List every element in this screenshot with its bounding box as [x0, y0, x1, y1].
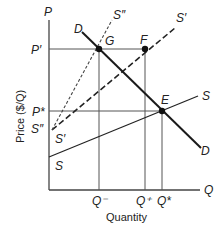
demand-label-bottom: D [201, 144, 210, 158]
supply-label-right: S [202, 89, 210, 103]
supply-curve-s [49, 96, 198, 157]
point-f-label: F [140, 33, 148, 47]
q-minus-label: Q⁻ [92, 194, 109, 208]
point-g-label: G [105, 34, 114, 48]
q-plus-label: Q⁺ [136, 194, 153, 208]
s-double-prime-label-top: S″ [113, 8, 126, 22]
x-axis-title: Quantity [106, 211, 147, 223]
supply-label-left: S [55, 159, 63, 173]
s-prime-label-left: S′ [55, 132, 66, 146]
s-prime-label-top: S′ [176, 11, 187, 25]
x-axis-label: Q [204, 183, 213, 197]
supply-curve-s-double-prime [52, 20, 112, 130]
p-prime-label: P′ [31, 43, 42, 57]
point-e [159, 108, 165, 114]
demand-label-top: D [74, 22, 83, 36]
point-e-label: E [161, 93, 170, 107]
supply-demand-diagram: P Q P′ P* Q⁻ Q⁺ Q* D D S S S′ S′ S″ S″ G… [0, 0, 223, 233]
s-double-prime-label-left: S″ [31, 122, 44, 136]
point-g [96, 46, 102, 52]
y-axis-title: Price ($/Q) [14, 90, 26, 143]
q-star-label: Q* [157, 194, 171, 208]
p-star-label: P* [32, 105, 45, 119]
y-axis-label: P [44, 5, 52, 19]
